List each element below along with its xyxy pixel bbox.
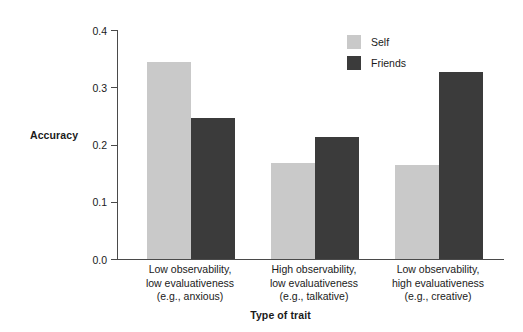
y-tick-label: 0.1 [92, 196, 107, 208]
x-axis-title-text: Type of trait [250, 309, 311, 321]
x-axis-line [117, 259, 504, 260]
y-tick-label: 0.0 [92, 254, 107, 266]
bar-friends-3[interactable] [439, 72, 483, 259]
y-tick-label: 0.2 [92, 139, 107, 151]
category-label-line: (e.g., creative) [358, 290, 518, 304]
bar-friends-1[interactable] [191, 118, 235, 259]
legend-label-friends: Friends [371, 57, 406, 69]
y-tick-mark: 0.1 [111, 202, 117, 203]
legend-item-self[interactable]: Self [347, 34, 406, 50]
legend-swatch-self-icon [347, 35, 361, 49]
legend-label-self: Self [371, 36, 389, 48]
legend: Self Friends [347, 34, 406, 76]
category-label-3: Low observability,high evaluativeness(e.… [358, 263, 518, 304]
y-tick-label: 0.4 [92, 25, 107, 37]
bar-self-2[interactable] [271, 163, 315, 259]
legend-item-friends[interactable]: Friends [347, 55, 406, 71]
bar-chart-figure: Accuracy 0.00.10.20.30.4 Low observabili… [0, 0, 523, 332]
bar-friends-2[interactable] [315, 137, 359, 259]
y-tick-mark: 0.4 [111, 30, 117, 31]
y-tick-label: 0.3 [92, 82, 107, 94]
bar-self-1[interactable] [147, 62, 191, 259]
category-label-line: high evaluativeness [358, 277, 518, 291]
bar-series-group [118, 30, 504, 259]
legend-swatch-friends-icon [347, 56, 361, 70]
y-tick-mark: 0.0 [111, 259, 117, 260]
y-axis-title: Accuracy [30, 129, 78, 141]
x-axis-title: Type of trait [0, 309, 523, 321]
y-tick-mark: 0.2 [111, 145, 117, 146]
category-label-line: Low observability, [358, 263, 518, 277]
y-tick-mark: 0.3 [111, 87, 117, 88]
bar-self-3[interactable] [395, 165, 439, 259]
plot-area: 0.00.10.20.30.4 Low observability,low ev… [117, 30, 503, 259]
